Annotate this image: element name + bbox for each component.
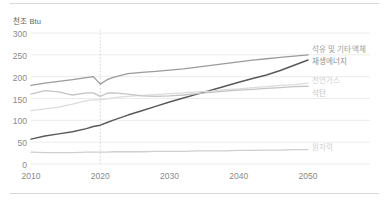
gridlines	[31, 33, 370, 164]
chart-card: 천조 Btu 300 250 200 150 100 50 0 2010 202…	[0, 0, 389, 201]
series-line	[31, 83, 308, 111]
series-line	[31, 150, 308, 153]
series-line	[31, 86, 308, 96]
series-line	[31, 55, 308, 86]
series-lines	[31, 55, 308, 153]
series-line	[31, 60, 308, 139]
chart-plot-svg	[0, 0, 389, 201]
